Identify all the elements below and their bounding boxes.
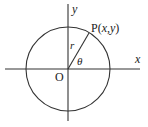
radius-label: r (70, 39, 75, 51)
y-axis-label: y (71, 2, 78, 16)
point-label-prefix: P( (91, 21, 102, 35)
point-label: P(x,y) (91, 21, 119, 35)
x-axis-label: x (134, 52, 141, 66)
point-label-suffix: ) (115, 21, 119, 35)
angle-label: θ (77, 55, 83, 67)
polar-coordinate-diagram: y x O r θ P(x,y) (0, 0, 148, 127)
origin-label: O (55, 70, 64, 84)
